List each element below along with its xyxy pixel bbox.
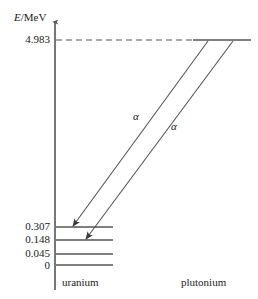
axis-title: E/MeV (14, 12, 46, 23)
alpha-decay-label-2: α (171, 121, 177, 132)
tick-label-level-0148: 0.148 (6, 234, 50, 245)
alpha-decay-label-1: α (133, 111, 139, 122)
alpha-transition-arrow-1 (73, 41, 208, 226)
nuclide-label-uranium: uranium (62, 277, 99, 288)
alpha-transition-arrow-2 (86, 41, 233, 239)
tick-label-level-ground: 0 (6, 260, 50, 271)
energy-level-diagram: E/MeV 4.983 0.307 0.148 0.045 0 α α uran… (0, 0, 258, 299)
tick-label-parent-energy: 4.983 (6, 34, 50, 45)
nuclide-label-plutonium: plutonium (181, 277, 226, 288)
tick-label-level-0307: 0.307 (6, 221, 50, 232)
tick-label-level-0045: 0.045 (6, 248, 50, 259)
axis-title-unit: /MeV (21, 11, 47, 23)
axis-title-symbol: E (14, 11, 21, 23)
